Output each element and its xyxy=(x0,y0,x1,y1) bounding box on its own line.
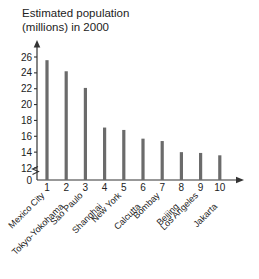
bar xyxy=(180,152,183,180)
svg-text:22: 22 xyxy=(21,83,33,94)
bar xyxy=(199,153,202,180)
svg-text:6: 6 xyxy=(140,182,146,193)
svg-text:7: 7 xyxy=(159,182,165,193)
svg-text:4: 4 xyxy=(102,182,108,193)
svg-text:18: 18 xyxy=(21,115,33,126)
bar xyxy=(84,88,87,180)
bar xyxy=(65,71,68,180)
bar xyxy=(218,155,221,180)
category-labels: Mexico CityTokyo-YokohamaSao PauloShangh… xyxy=(6,190,219,257)
chart-plot-area: 12141618202224260 12345678910 Mexico Cit… xyxy=(0,0,259,279)
bar xyxy=(122,130,125,180)
svg-text:3: 3 xyxy=(83,182,89,193)
svg-text:24: 24 xyxy=(21,67,33,78)
bar xyxy=(161,141,164,180)
svg-text:14: 14 xyxy=(21,147,33,158)
svg-text:20: 20 xyxy=(21,99,33,110)
svg-text:12: 12 xyxy=(21,163,33,174)
bar xyxy=(103,128,106,180)
svg-text:10: 10 xyxy=(214,182,226,193)
svg-text:9: 9 xyxy=(198,182,204,193)
bar xyxy=(141,139,144,180)
svg-text:8: 8 xyxy=(179,182,185,193)
chart-axes xyxy=(33,40,245,183)
svg-text:16: 16 xyxy=(21,131,33,142)
bar xyxy=(45,60,48,180)
x-axis-ticks: 12345678910 xyxy=(44,175,226,193)
svg-text:5: 5 xyxy=(121,182,127,193)
category-label: Jakarta xyxy=(191,201,219,229)
svg-text:1: 1 xyxy=(44,182,50,193)
bar-series xyxy=(45,60,221,180)
y-axis-ticks: 12141618202224260 xyxy=(21,52,37,186)
svg-text:0: 0 xyxy=(26,175,32,186)
svg-text:2: 2 xyxy=(63,182,69,193)
population-bar-chart: Estimated population (millions) in 2000 … xyxy=(0,0,259,279)
svg-text:26: 26 xyxy=(21,52,33,63)
